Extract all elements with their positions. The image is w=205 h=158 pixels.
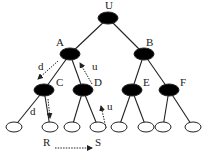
node-F: [159, 84, 179, 96]
tree-edges: [14, 18, 193, 127]
annotation-R: R: [43, 136, 51, 148]
node-label-A: A: [56, 36, 64, 48]
node-B: [134, 48, 154, 60]
leaf-node-L8: [185, 122, 201, 132]
leaf-node-L4: [90, 122, 106, 132]
traversal-arrow-u: [80, 63, 92, 84]
node-U: [98, 12, 118, 24]
node-label-C: C: [56, 76, 63, 88]
leaf-node-L7: [155, 122, 171, 132]
leaf-node-L2: [42, 122, 58, 132]
node-label-U: U: [105, 0, 113, 11]
node-label-F: F: [180, 76, 186, 88]
arrow-label-u: u: [92, 60, 98, 72]
node-label-B: B: [146, 36, 153, 48]
node-A: [60, 48, 80, 60]
leaf-node-L6: [138, 122, 154, 132]
traversal-arrows: dduu: [30, 60, 113, 148]
node-label-D: D: [94, 76, 102, 88]
arrow-label-d: d: [38, 60, 44, 72]
annotation-S: S: [95, 136, 101, 148]
leaf-node-L1: [6, 122, 22, 132]
arrow-label-u: u: [107, 100, 113, 112]
node-label-E: E: [143, 76, 150, 88]
node-D: [73, 84, 93, 96]
arrow-label-d: d: [30, 105, 36, 117]
leaf-node-L3: [64, 122, 80, 132]
tree-diagram: dduu UABCDEFRS: [0, 0, 205, 158]
leaf-node-L5: [111, 122, 127, 132]
node-E: [122, 84, 142, 96]
node-C: [34, 84, 54, 96]
